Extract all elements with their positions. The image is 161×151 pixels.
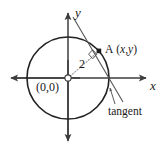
point-a-label: A (x,y)	[105, 44, 137, 56]
radius-length-label: 2	[79, 58, 85, 70]
figure-canvas	[0, 0, 161, 151]
tangent-leader-line	[110, 88, 115, 104]
x-axis-label: x	[150, 79, 156, 92]
circle-tangent-figure: y x A (x,y) (0,0) 2 tangent	[0, 0, 161, 151]
tangent-label: tangent	[108, 106, 142, 118]
y-axis-label: y	[75, 6, 81, 19]
origin-marker	[65, 75, 71, 81]
origin-label: (0,0)	[36, 81, 59, 93]
point-a-marker	[97, 49, 102, 54]
point-a-paren-close: )	[133, 43, 137, 55]
